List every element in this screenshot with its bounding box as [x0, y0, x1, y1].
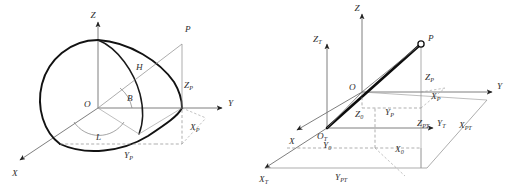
ellipsoid-outer-meridian	[40, 40, 98, 144]
ellipsoid-inner-meridian	[98, 40, 143, 134]
left-x-axis-label: X	[11, 168, 18, 178]
left-z-axis-label: Z	[90, 10, 96, 20]
ground-plane-right-edge	[427, 100, 487, 168]
right-ypt-label: YPT	[335, 172, 348, 183]
left-xp-label: XP	[189, 122, 200, 133]
right-point-p-label: P	[427, 33, 434, 43]
geodetic-ellipsoid-panel: Z Y X O P H B L ZP XP YP	[0, 0, 255, 188]
left-x-axis	[20, 108, 98, 160]
figure-root: Z Y X O P H B L ZP XP YP	[0, 0, 519, 188]
point-p-marker	[418, 41, 424, 47]
right-z-axis-label: Z	[354, 3, 360, 13]
thin-line-o-to-p	[362, 44, 421, 92]
left-point-p-label: P	[184, 24, 191, 34]
left-latitude-angle-label: B	[127, 93, 133, 103]
left-longitude-angle-label: L	[95, 132, 101, 142]
topocentric-transform-panel: Z Y X ZT YT XT O OT P ZP XP YP Z0 ZPT Y0…	[255, 0, 519, 188]
right-z0-label: Z0	[355, 109, 363, 120]
ground-plane-back-edge	[362, 92, 487, 100]
vector-ot-to-p	[327, 44, 421, 128]
right-y-axis-label: Y	[497, 81, 503, 91]
dashed-xp-diagonal-upper	[182, 108, 206, 118]
left-zp-label: ZP	[184, 80, 193, 91]
left-height-label: H	[135, 62, 144, 72]
right-zpt-label: ZPT	[417, 118, 430, 129]
right-xt-axis-label: XT	[258, 174, 269, 185]
ground-projection-line	[98, 108, 139, 134]
right-xp-label: XP	[430, 91, 441, 102]
ellipsoid-equator-arc	[60, 108, 182, 151]
right-yt-axis-label: YT	[437, 118, 446, 129]
right-x0-label: X0	[394, 144, 404, 155]
right-y0-label: Y0	[323, 140, 331, 151]
right-origin-o-label: O	[349, 82, 356, 92]
right-zp-label: ZP	[425, 72, 434, 83]
left-origin-label: O	[84, 99, 91, 109]
left-yp-label: YP	[124, 150, 133, 161]
left-y-axis-label: Y	[228, 98, 234, 108]
ellipsoid-right-meridian	[98, 40, 182, 108]
ground-to-y-axis-line	[139, 108, 182, 134]
right-zt-axis-label: ZT	[313, 34, 322, 45]
right-xpt-label: XPT	[458, 120, 472, 131]
right-x-axis-label: X	[288, 136, 295, 146]
right-yp-label: YP	[385, 107, 394, 118]
